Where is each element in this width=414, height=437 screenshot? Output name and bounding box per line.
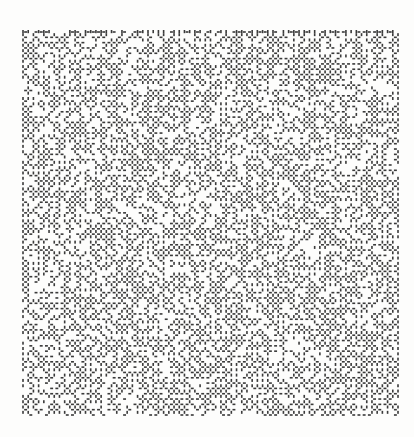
maze-pattern: [21, 30, 400, 417]
